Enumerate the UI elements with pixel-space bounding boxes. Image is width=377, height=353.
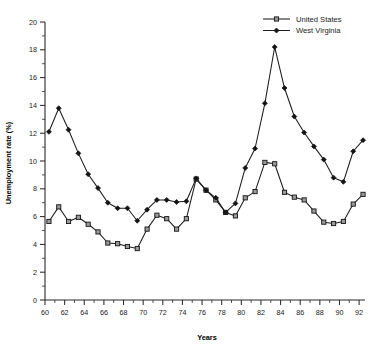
x-tick-label: 88 [316,308,324,317]
data-point [174,227,178,231]
x-tick-label: 90 [335,308,343,317]
x-tick-label: 64 [80,308,88,317]
data-point [145,227,149,231]
x-tick-label: 70 [139,308,147,317]
y-tick-label: 8 [33,184,37,193]
data-point [312,209,316,213]
data-point [292,195,296,199]
x-tick-label: 68 [120,308,128,317]
x-tick-label: 74 [178,308,186,317]
data-point [184,217,188,221]
x-tick-label: 80 [237,308,245,317]
y-tick-label: 20 [29,18,37,27]
y-tick-label: 0 [33,296,37,305]
data-point [302,198,306,202]
data-point [273,162,277,166]
data-point [243,196,247,200]
line-chart: 02468101214161820 6062646668707274767880… [0,0,377,353]
legend-marker [274,17,278,21]
y-tick-label: 18 [29,45,37,54]
data-point [106,241,110,245]
x-tick-label: 66 [100,308,108,317]
data-point [125,244,129,248]
data-point [331,221,335,225]
y-axis-title: Unemployment rate (%) [4,121,13,204]
data-point [57,205,61,209]
data-point [96,230,100,234]
x-tick-label: 60 [41,308,49,317]
data-point [361,192,365,196]
data-point [116,242,120,246]
data-point [253,189,257,193]
data-point [86,222,90,226]
x-axis-title: Years [197,333,217,342]
y-tick-label: 10 [29,157,37,166]
x-tick-label: 62 [61,308,69,317]
data-point [47,219,51,223]
data-point [165,217,169,221]
data-point [322,220,326,224]
chart-container: 02468101214161820 6062646668707274767880… [0,0,377,353]
x-tick-label: 76 [198,308,206,317]
data-point [135,246,139,250]
legend-label: West Virginia [296,26,341,35]
legend-label: United States [296,15,342,24]
data-point [282,190,286,194]
x-tick-label: 86 [296,308,304,317]
x-tick-label: 82 [257,308,265,317]
y-tick-label: 12 [29,129,37,138]
data-point [76,215,80,219]
y-tick-label: 6 [33,212,37,221]
x-tick-label: 84 [277,308,285,317]
x-tick-label: 72 [159,308,167,317]
data-point [155,213,159,217]
y-tick-label: 2 [33,268,37,277]
data-point [341,219,345,223]
data-point [233,214,237,218]
data-point [351,202,355,206]
y-tick-label: 16 [29,73,37,82]
x-tick-label: 78 [218,308,226,317]
data-point [263,160,267,164]
y-tick-label: 4 [33,240,37,249]
data-point [66,219,70,223]
x-tick-label: 92 [355,308,363,317]
y-tick-label: 14 [29,101,37,110]
